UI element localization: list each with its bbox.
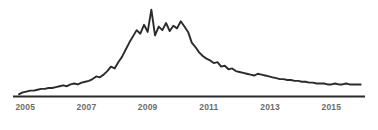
plot-area [19,10,361,95]
x-tick-label-2005: 2005 [15,102,35,112]
x-tick-label-2013: 2013 [260,102,280,112]
series-line-value [19,10,361,95]
sparkline-chart: 200520072009201120132015 [0,0,378,130]
x-tick-label-2009: 2009 [138,102,158,112]
x-tick-label-2007: 2007 [77,102,97,112]
x-axis-tick-labels: 200520072009201120132015 [15,102,341,112]
chart-canvas: 200520072009201120132015 [0,0,378,130]
x-tick-label-2015: 2015 [321,102,341,112]
x-tick-label-2011: 2011 [199,102,218,112]
